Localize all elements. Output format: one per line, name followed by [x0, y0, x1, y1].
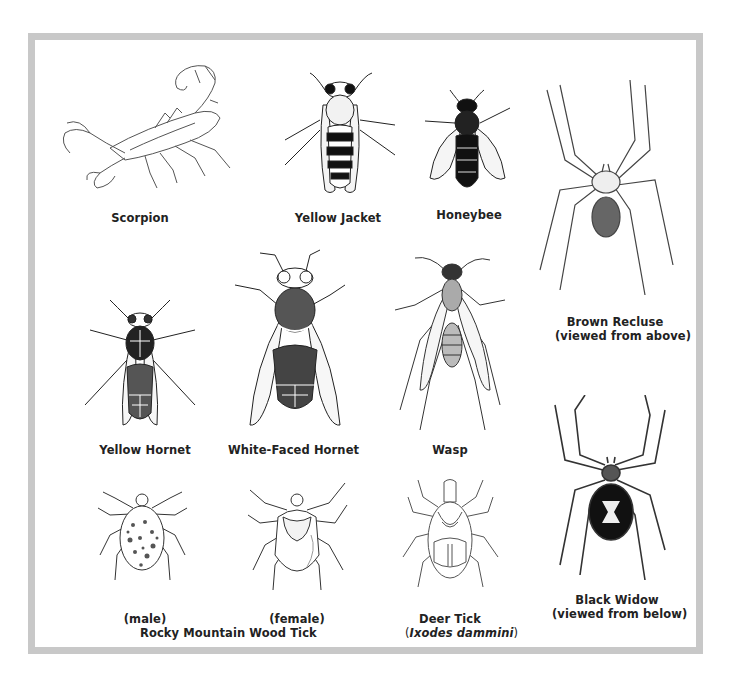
- wood-tick-female-illustration: [245, 475, 350, 595]
- label-black-widow-sub: (viewed from below): [552, 607, 682, 621]
- label-white-faced-hornet: White-Faced Hornet: [228, 443, 358, 457]
- honeybee-illustration: [420, 88, 515, 198]
- black-widow-illustration: [535, 395, 685, 585]
- label-brown-recluse-title: Brown Recluse: [555, 315, 675, 329]
- label-honeybee: Honeybee: [424, 208, 514, 222]
- label-wood-tick-male: (male): [115, 612, 175, 626]
- wood-tick-male-illustration: [95, 480, 190, 590]
- white-faced-hornet-illustration: [230, 245, 360, 430]
- label-wood-tick-female: (female): [262, 612, 332, 626]
- label-deer-tick: Deer Tick (Ixodes dammini): [405, 612, 495, 640]
- wasp-illustration: [390, 250, 515, 430]
- label-yellow-jacket: Yellow Jacket: [283, 211, 393, 225]
- label-wasp: Wasp: [420, 443, 480, 457]
- brown-recluse-illustration: [535, 80, 685, 305]
- deer-tick-illustration: [398, 472, 503, 597]
- scorpion-illustration: [55, 58, 255, 198]
- label-rocky-mountain-wood-tick: Rocky Mountain Wood Tick: [140, 626, 310, 640]
- paren-close: ): [514, 626, 519, 640]
- label-deer-tick-title: Deer Tick: [405, 612, 495, 626]
- yellow-jacket-illustration: [280, 65, 400, 200]
- label-brown-recluse: Brown Recluse (viewed from above): [555, 315, 675, 343]
- scientific-name: Ixodes dammini: [410, 626, 514, 640]
- label-yellow-hornet: Yellow Hornet: [95, 443, 195, 457]
- label-black-widow: Black Widow (viewed from below): [552, 593, 682, 621]
- yellow-hornet-illustration: [85, 295, 200, 430]
- label-brown-recluse-sub: (viewed from above): [555, 329, 675, 343]
- label-deer-tick-scientific: (Ixodes dammini): [405, 626, 495, 640]
- label-black-widow-title: Black Widow: [552, 593, 682, 607]
- label-scorpion: Scorpion: [95, 211, 185, 225]
